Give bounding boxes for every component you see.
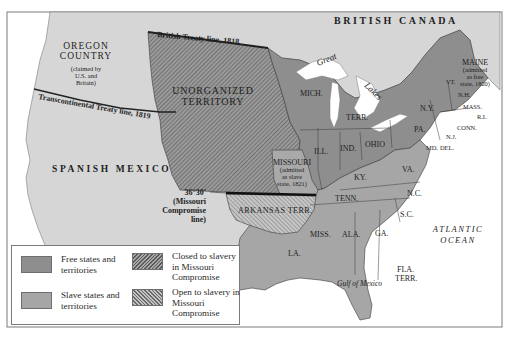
legend-item-open: Open to slavery in Missouri Compromise [132, 287, 240, 319]
label-ala: ALA. [342, 230, 360, 239]
label-terr: TERR. [346, 113, 368, 122]
label-mich: MICH. [300, 89, 323, 98]
legend-item-slave: Slave states and territories [21, 290, 129, 311]
label-ohio: OHIO [365, 140, 385, 149]
label-oregon-country-1: OREGON [63, 41, 109, 51]
label-nh: N.H. [458, 91, 471, 98]
label-vt: VT. [446, 78, 456, 85]
label-ri: R.I. [477, 113, 487, 120]
label-compromise-2: (Missouri [173, 197, 207, 206]
label-va: VA. [402, 165, 415, 174]
label-la: LA. [288, 249, 301, 258]
label-ocean: OCEAN [440, 235, 475, 245]
label-sc: S.C. [400, 210, 414, 219]
label-missouri-note-2: as slave [282, 173, 302, 180]
label-oregon-note-3: Britain) [76, 79, 96, 87]
free-states-swatch [21, 256, 52, 273]
legend-label: Closed to slavery in Missouri Compromise [172, 251, 240, 283]
label-nj: N.J. [446, 133, 457, 140]
legend-label: Free states and territories [61, 254, 129, 275]
label-tenn: TENN. [335, 194, 358, 203]
label-fla-1: FLA. [397, 265, 414, 274]
label-ga: GA. [375, 229, 389, 238]
label-gulf: Gulf of Mexico [337, 279, 382, 288]
slave-states-swatch [21, 292, 52, 309]
label-nc: N.C. [407, 189, 422, 198]
label-missouri-note-3: state, 1821) [277, 180, 307, 188]
closed-to-slavery-swatch [132, 253, 163, 270]
label-conn: CONN. [457, 124, 477, 131]
label-ill: ILL. [314, 147, 328, 156]
label-compromise-1: 36°30' [185, 188, 206, 197]
label-fla-2: TERR. [395, 274, 417, 283]
label-ky: KY. [354, 173, 367, 182]
label-unorganized-2: TERRITORY [182, 96, 245, 107]
label-del: DEL. [440, 144, 454, 151]
label-maine-note-2: as free [467, 73, 484, 80]
label-md: MD. [426, 144, 438, 151]
label-spanish-mexico: SPANISH MEXICO [52, 164, 171, 174]
label-mass: MASS. [463, 103, 482, 110]
label-oregon-note-2: U.S. and [75, 72, 98, 79]
label-miss: MISS. [310, 230, 331, 239]
label-pa: PA. [414, 125, 426, 134]
label-unorganized-1: UNORGANIZED [172, 85, 254, 96]
open-to-slavery-swatch [132, 289, 163, 306]
label-ind: IND. [340, 144, 356, 153]
label-oregon-country-2: COUNTRY [60, 51, 112, 61]
label-compromise-3: Compromise [162, 206, 206, 215]
label-atlantic: ATLANTIC [432, 224, 483, 234]
label-arkansas: ARKANSAS TERR. [238, 206, 313, 215]
legend-item-free: Free states and territories [21, 254, 129, 275]
label-maine-note-3: state, 1820) [460, 80, 490, 88]
legend-item-closed: Closed to slavery in Missouri Compromise [132, 251, 240, 283]
map-legend: Free states and territories Closed to sl… [11, 245, 240, 325]
legend-label: Slave states and territories [61, 290, 129, 311]
label-ny: N.Y. [420, 104, 435, 113]
label-british-canada: BRITISH CANADA [334, 15, 458, 26]
legend-label: Open to slavery in Missouri Compromise [172, 287, 240, 319]
label-compromise-4: line) [191, 215, 206, 224]
